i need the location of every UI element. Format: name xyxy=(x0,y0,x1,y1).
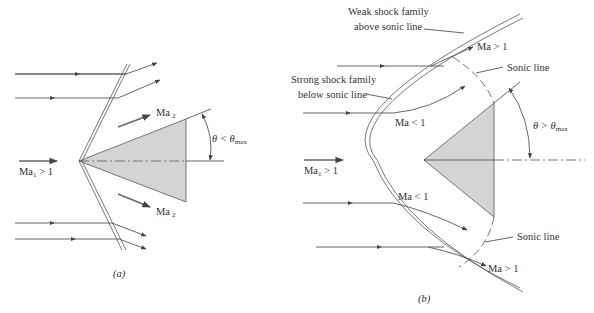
ma1-label-a: Ma1 > 1 xyxy=(19,166,53,179)
sonic-line-lower xyxy=(459,217,494,267)
ma2-upper-arrow xyxy=(118,115,150,127)
shock-diagram: Ma1 > 1 Ma2 Ma2 θ < θmax (a) xyxy=(0,0,594,313)
ma1-label-b: Ma1 > 1 xyxy=(304,165,338,178)
panel-a: Ma1 > 1 Ma2 Ma2 θ < θmax (a) xyxy=(15,63,247,280)
angle-label-a: θ < θmax xyxy=(212,133,247,146)
streamlines-upper-a xyxy=(15,63,160,100)
sonic-line-upper xyxy=(453,57,494,103)
wedge-extension-a xyxy=(186,109,211,119)
strong-shock-label-line1: Strong shock family xyxy=(291,74,377,85)
strong-shock-label-line2: below sonic line xyxy=(298,89,367,100)
angle-label-b: θ > θmax xyxy=(533,120,568,133)
angle-arc-b xyxy=(509,88,530,158)
upper-supersonic-label: Ma > 1 xyxy=(477,41,507,52)
panel-b: Weak shock family above sonic line Stron… xyxy=(291,6,585,305)
sonic-lower-leader xyxy=(485,237,513,242)
weak-shock-leader xyxy=(424,29,464,33)
lower-sonic-line-label: Sonic line xyxy=(517,231,560,242)
angle-arc-a xyxy=(202,114,211,160)
upper-subsonic-label: Ma < 1 xyxy=(395,117,425,128)
sonic-upper-leader xyxy=(476,67,503,73)
caption-b: (b) xyxy=(418,293,431,305)
caption-a: (a) xyxy=(113,268,126,280)
wedge-a xyxy=(79,119,186,202)
upper-sonic-line-label: Sonic line xyxy=(507,62,550,73)
strong-shock-leader xyxy=(366,94,392,99)
streamlines-lower-a xyxy=(15,221,146,249)
ma2-lower-arrow xyxy=(118,194,150,207)
weak-shock-label-line1: Weak shock family xyxy=(348,6,430,17)
ma2-upper-label: Ma2 xyxy=(156,107,176,120)
weak-shock-label-line2: above sonic line xyxy=(354,21,423,32)
lower-subsonic-label: Ma < 1 xyxy=(398,191,428,202)
streamlines-lower-b xyxy=(303,201,486,266)
lower-supersonic-label: Ma > 1 xyxy=(488,263,518,274)
ma2-lower-label: Ma2 xyxy=(156,206,176,219)
